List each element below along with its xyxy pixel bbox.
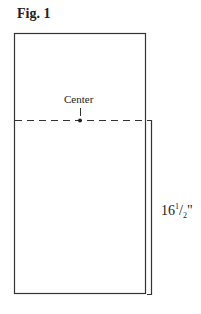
dimension-numerator: 1: [175, 202, 179, 211]
panel-rectangle: [15, 34, 146, 294]
dimension-unit: ": [187, 203, 193, 218]
diagram-canvas: [0, 0, 201, 314]
center-dot: [78, 119, 82, 123]
dimension-whole: 16: [161, 203, 175, 218]
center-label: Center: [64, 94, 93, 105]
dimension-label: 161/2": [161, 200, 193, 223]
dimension-bracket: [147, 121, 152, 295]
